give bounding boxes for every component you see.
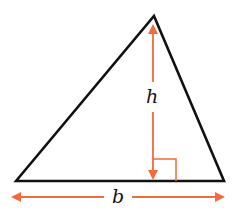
right-angle-marker bbox=[153, 159, 176, 181]
height-label: h bbox=[146, 87, 158, 106]
base-label: b bbox=[112, 187, 124, 206]
triangle-outline bbox=[16, 16, 224, 181]
